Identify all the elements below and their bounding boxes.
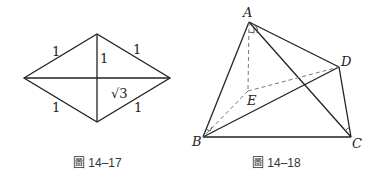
vertex-label-E: E bbox=[246, 93, 257, 108]
figure-14-17 bbox=[24, 34, 170, 122]
edge-AB bbox=[203, 22, 249, 137]
diagram-canvas: 1 1 1 1 1 √3 圖 14–17 A B C D E 圖 14–18 bbox=[0, 0, 381, 182]
edge-DC bbox=[339, 67, 351, 137]
label-horizontal-half-sqrt3: √3 bbox=[111, 86, 128, 101]
edge-AC bbox=[249, 22, 351, 137]
label-vertical-half: 1 bbox=[100, 51, 108, 66]
right-angle-mark-A bbox=[249, 28, 254, 33]
caption-14-17: 圖 14–17 bbox=[73, 156, 122, 170]
dashed-AE bbox=[248, 22, 249, 91]
label-side-bottom-left: 1 bbox=[52, 100, 60, 115]
vertex-label-B: B bbox=[191, 134, 202, 149]
label-side-bottom-right: 1 bbox=[134, 100, 142, 115]
label-side-top-left: 1 bbox=[52, 44, 60, 59]
hidden-lines bbox=[203, 22, 339, 137]
edge-AD bbox=[249, 22, 339, 67]
vertex-label-A: A bbox=[242, 5, 252, 20]
dashed-EB bbox=[203, 91, 248, 137]
dashed-ED bbox=[248, 67, 339, 91]
angle-marks bbox=[206, 25, 350, 131]
caption-14-18: 圖 14–18 bbox=[252, 156, 301, 170]
edge-BD bbox=[203, 67, 339, 137]
vertex-label-D: D bbox=[340, 54, 352, 69]
figure-14-18 bbox=[203, 22, 351, 137]
vertex-label-C: C bbox=[352, 136, 362, 151]
label-side-top-right: 1 bbox=[133, 42, 141, 57]
